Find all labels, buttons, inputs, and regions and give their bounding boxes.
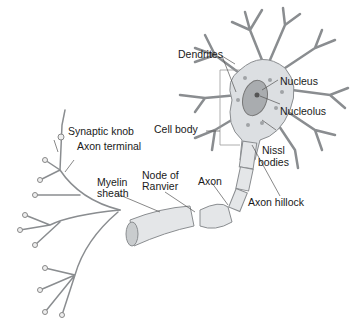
label-nissl-2: bodies xyxy=(258,157,289,168)
label-axon: Axon xyxy=(198,176,222,187)
label-nissl-1: Nissl xyxy=(262,145,285,156)
label-cell-body: Cell body xyxy=(154,124,198,135)
label-synaptic-knob: Synaptic knob xyxy=(68,126,134,137)
label-nucleus: Nucleus xyxy=(280,76,318,87)
neuron-diagram: Dendrites Nucleus Nucleolus Cell body Ni… xyxy=(0,0,350,330)
label-axon-terminal: Axon terminal xyxy=(77,141,141,152)
label-axon-hillock: Axon hillock xyxy=(248,197,304,208)
label-myelin-2: sheath xyxy=(97,188,129,199)
neuron-illustration xyxy=(0,0,350,330)
label-node-2: Ranvier xyxy=(142,181,178,192)
label-nucleolus: Nucleolus xyxy=(280,106,326,117)
label-dendrites: Dendrites xyxy=(178,49,223,60)
